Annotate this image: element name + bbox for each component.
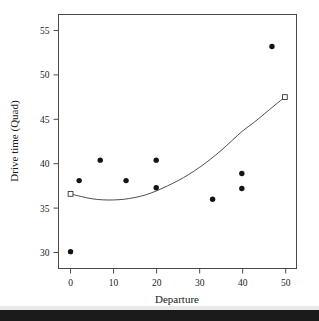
data-point [98, 157, 103, 162]
x-tick-label: 10 [109, 278, 119, 288]
y-tick-label: 55 [40, 26, 50, 36]
data-point [68, 249, 73, 254]
x-tick-label: 30 [195, 278, 205, 288]
y-tick-label: 45 [40, 115, 50, 125]
data-point [154, 185, 159, 190]
data-point [76, 178, 81, 183]
y-axis-title: Drive time (Quad) [8, 100, 21, 182]
data-point [123, 178, 128, 183]
x-tick-label: 50 [281, 278, 291, 288]
x-tick-label: 0 [68, 278, 73, 288]
data-point [210, 197, 215, 202]
data-point [239, 171, 244, 176]
y-tick-label: 35 [40, 204, 50, 214]
y-tick-label: 40 [40, 159, 50, 169]
y-tick-label: 30 [40, 248, 50, 258]
curve-endpoint-marker [282, 95, 287, 100]
data-point [239, 186, 244, 191]
x-tick-label: 20 [152, 278, 162, 288]
scatter-plot: 01020304050 303540455055 Departure Drive… [0, 0, 319, 321]
figure-container: 01020304050 303540455055 Departure Drive… [0, 0, 319, 321]
y-tick-label: 50 [40, 70, 50, 80]
page-edge-bar [0, 310, 319, 321]
curve-endpoint-marker [68, 192, 73, 197]
data-point [269, 44, 274, 49]
data-point [154, 157, 159, 162]
x-axis-title: Departure [155, 293, 199, 305]
x-tick-label: 40 [238, 278, 248, 288]
